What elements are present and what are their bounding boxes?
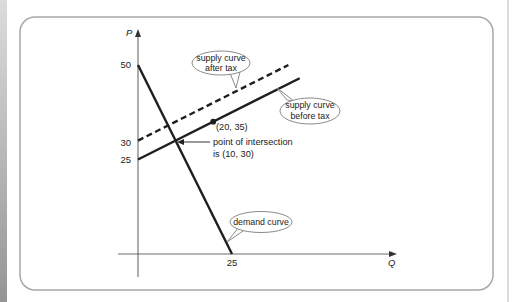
intersection-label-line2: is (10, 30)	[213, 149, 254, 159]
y-tick-30: 30	[120, 137, 131, 148]
callout-line1: demand curve	[233, 217, 289, 227]
x-tick-25: 25	[227, 257, 238, 268]
left-page-strip	[0, 0, 7, 302]
y-axis-label: P	[126, 27, 133, 38]
callout-line1: supply curve	[196, 53, 245, 63]
x-axis-label: Q	[388, 257, 396, 268]
supply-demand-figure: P Q 50 30 25 25 (20, 35) point of inters…	[0, 0, 514, 302]
y-tick-50: 50	[120, 59, 131, 70]
callout-line1: supply curve	[285, 100, 334, 110]
figure-frame	[20, 17, 493, 290]
callout-line2: after tax	[205, 63, 237, 73]
callout-line2: before tax	[290, 111, 330, 121]
point-20-35-label: (20, 35)	[216, 122, 248, 132]
y-tick-25: 25	[120, 154, 131, 165]
intersection-label-line1: point of intersection	[213, 137, 293, 147]
